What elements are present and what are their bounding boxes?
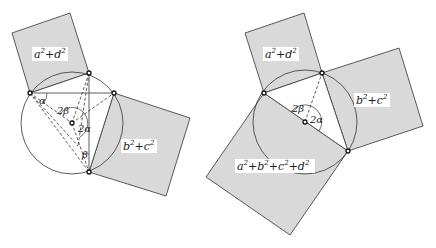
angle-beta-left: β <box>81 149 88 160</box>
center-o-left <box>70 121 74 125</box>
angle-2beta-left: 2β <box>56 105 69 116</box>
right-figure: a2+d2 b2+c2 a2+b2+c2+d2 2β 2α <box>206 13 423 235</box>
angle-2beta-right: 2β <box>291 103 304 114</box>
vertex-r <box>346 149 350 153</box>
vertex-d <box>87 170 91 174</box>
label-abcd-right: a2+b2+c2+d2 <box>237 159 310 173</box>
vertex-q <box>320 71 324 75</box>
diagram-canvas: a2+d2 b2+c2 α 2β 2α β a2+d2 b2+c2 <box>0 0 436 248</box>
left-figure: a2+d2 b2+c2 α 2β 2α β <box>12 13 190 196</box>
vertex-a <box>28 91 32 95</box>
vertex-p <box>262 91 266 95</box>
angle-2alpha-left: 2α <box>77 123 91 134</box>
vertex-c <box>112 91 116 95</box>
angle-2alpha-right: 2α <box>309 114 323 125</box>
angle-alpha-left: α <box>39 95 46 106</box>
center-o-right <box>303 120 307 124</box>
vertex-b <box>87 71 91 75</box>
